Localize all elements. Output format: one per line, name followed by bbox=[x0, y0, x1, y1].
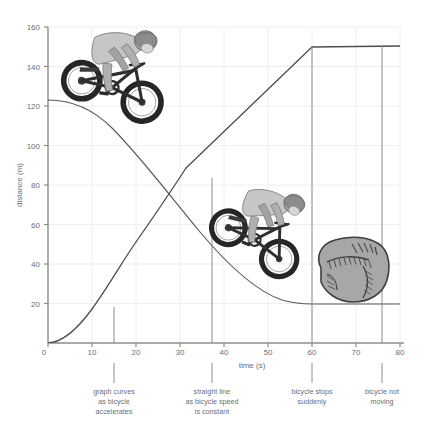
annotation-1-line3: accelerates bbox=[96, 407, 133, 416]
annotation-2-line1: straight line bbox=[194, 387, 231, 396]
y-tick-20: 20 bbox=[31, 300, 40, 309]
y-tick-160: 160 bbox=[27, 23, 41, 32]
annotation-3-line1: bicycle stops bbox=[291, 387, 333, 396]
x-tick-40: 40 bbox=[220, 348, 229, 357]
x-tick-10: 10 bbox=[88, 348, 97, 357]
y-tick-80: 80 bbox=[31, 181, 40, 190]
boulder-illustration bbox=[319, 237, 389, 302]
x-tick-30: 30 bbox=[176, 348, 185, 357]
x-axis-title: time (s) bbox=[239, 361, 266, 370]
annotation-3-line2: suddenly bbox=[298, 397, 327, 406]
annotation-1-line1: graph curves bbox=[93, 387, 135, 396]
y-tick-100: 100 bbox=[27, 142, 41, 151]
x-tick-20: 20 bbox=[132, 348, 141, 357]
x-tick-50: 50 bbox=[264, 348, 273, 357]
x-tick-80: 80 bbox=[396, 348, 405, 357]
y-tick-60: 60 bbox=[31, 221, 40, 230]
y-tick-40: 40 bbox=[31, 260, 40, 269]
chart-canvas: 160 140 120 100 80 60 40 20 0 10 20 30 4… bbox=[0, 0, 448, 434]
annotation-4-line2: moving bbox=[370, 397, 393, 406]
distance-time-graph-figure: 160 140 120 100 80 60 40 20 0 10 20 30 4… bbox=[0, 0, 448, 434]
annotation-2-line3: is constant bbox=[195, 407, 229, 416]
x-tick-60: 60 bbox=[308, 348, 317, 357]
annotation-1: graph curves as bicycle accelerates bbox=[93, 387, 135, 416]
y-axis-title: distance (m) bbox=[15, 163, 24, 207]
annotation-4-line1: bicycle not bbox=[365, 387, 399, 396]
annotation-2-line2: as bicycle speed bbox=[185, 397, 238, 406]
annotation-1-line2: as bicycle bbox=[98, 397, 130, 406]
y-tick-140: 140 bbox=[27, 63, 41, 72]
y-tick-120: 120 bbox=[27, 102, 41, 111]
x-tick-70: 70 bbox=[352, 348, 361, 357]
y-tick-0: 0 bbox=[42, 348, 47, 357]
